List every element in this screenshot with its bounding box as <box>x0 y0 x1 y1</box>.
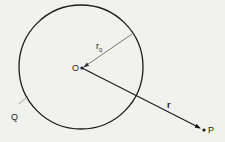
center-label: O <box>72 64 79 73</box>
center-point <box>80 66 83 69</box>
radius-label: r0 <box>96 42 102 53</box>
radius-label-subscript: 0 <box>99 47 102 53</box>
diagram-canvas <box>0 0 225 142</box>
q-leader-line <box>19 96 28 104</box>
vector-label: r <box>167 101 171 110</box>
radius-arrow <box>84 34 132 67</box>
point-p-label: P <box>208 126 214 135</box>
point-q-label: Q <box>11 113 18 122</box>
position-vector-arrow <box>82 68 200 128</box>
sphere-diagram: r0 O r P Q <box>0 0 225 142</box>
point-p <box>202 128 205 131</box>
